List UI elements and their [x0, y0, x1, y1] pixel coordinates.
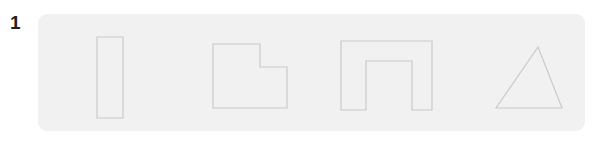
shape-triangle	[496, 47, 562, 108]
shapes-panel	[38, 14, 585, 131]
shape-arch	[341, 41, 432, 110]
shapes-canvas	[38, 14, 585, 131]
figure-root: 1	[0, 0, 609, 153]
shape-notched-square	[213, 44, 287, 108]
item-number-label: 1	[10, 11, 34, 35]
shape-tall-rectangle	[97, 37, 123, 118]
